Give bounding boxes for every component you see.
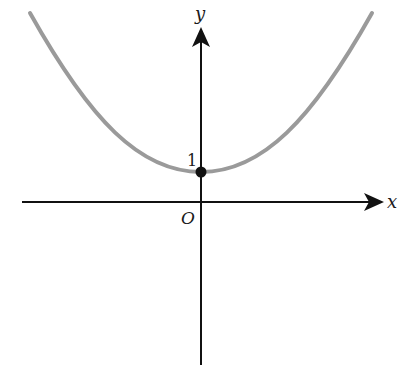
origin-label: O: [181, 208, 195, 228]
y-intercept-point: [196, 167, 207, 178]
y-axis-label: y: [194, 3, 206, 24]
x-axis-label: x: [387, 191, 397, 212]
graph-figure: y x O 1: [0, 0, 399, 367]
y-intercept-label: 1: [187, 151, 197, 170]
